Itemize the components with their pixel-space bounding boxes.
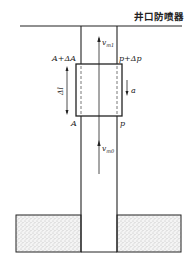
wellbore-diagram: 井口防喷器 A+ΔA p+Δp A p a Δl vm1 vm0	[0, 0, 195, 267]
velocity-top-arrow-icon	[97, 36, 100, 42]
length-arrow-down-icon	[66, 110, 69, 115]
area-bottom-label: A	[70, 119, 77, 128]
velocity-top-label: vm1	[102, 38, 114, 48]
length-label: Δl	[56, 87, 65, 96]
length-arrow-up-icon	[66, 66, 69, 71]
pressure-bottom-label: p	[120, 119, 125, 128]
acceleration-label: a	[131, 86, 136, 95]
velocity-bottom-label: vm0	[102, 144, 115, 154]
acceleration-arrow-icon	[126, 91, 129, 96]
formation-right	[117, 215, 181, 252]
formation-left	[16, 215, 81, 252]
velocity-bottom-arrow-icon	[97, 140, 100, 146]
pressure-top-label: p+Δp	[119, 54, 142, 63]
bop-label: 井口防喷器	[134, 11, 184, 22]
area-top-label: A+ΔA	[51, 54, 76, 63]
